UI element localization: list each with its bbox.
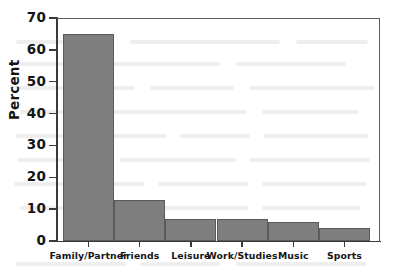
y-tick-30	[49, 145, 56, 146]
bar-chart-figure: Percent 010203040506070 Family/PartnerFr…	[0, 0, 400, 275]
y-tick-10	[49, 208, 56, 209]
bar	[319, 228, 370, 241]
y-tick-60	[49, 49, 56, 50]
y-tick-50	[49, 81, 56, 82]
y-tick-label-20: 20	[6, 168, 46, 184]
y-tick-label-30: 30	[6, 136, 46, 152]
x-tick	[344, 241, 345, 247]
x-tick	[241, 241, 242, 247]
x-tick	[139, 241, 140, 247]
y-tick-40	[49, 113, 56, 114]
bar	[268, 222, 319, 241]
x-tick	[190, 241, 191, 247]
x-tick	[88, 241, 89, 247]
x-tick-label: Family/Partner	[49, 250, 127, 261]
bar	[217, 219, 268, 241]
y-tick-label-40: 40	[6, 105, 46, 121]
y-tick-20	[49, 177, 56, 178]
bar	[165, 219, 216, 241]
y-tick-label-50: 50	[6, 73, 46, 89]
y-tick-label-70: 70	[6, 9, 46, 25]
bar	[114, 200, 165, 241]
y-tick-70	[49, 17, 56, 18]
x-tick-label: Leisure	[171, 250, 210, 261]
y-tick-label-60: 60	[6, 41, 46, 57]
x-tick-label: Work/Studies	[207, 250, 278, 261]
y-tick-0	[49, 240, 56, 241]
y-tick-label-0: 0	[6, 232, 46, 248]
x-tick-label: Sports	[327, 250, 362, 261]
x-tick	[293, 241, 294, 247]
x-tick-label: Music	[278, 250, 309, 261]
y-tick-label-10: 10	[6, 200, 46, 216]
x-tick-label: Friends	[120, 250, 159, 261]
bar	[63, 34, 114, 241]
